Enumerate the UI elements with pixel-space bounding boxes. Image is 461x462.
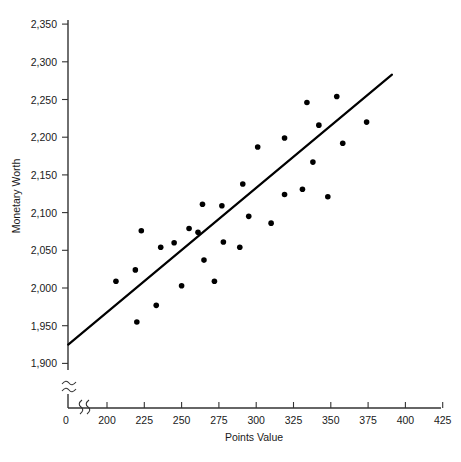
data-point — [237, 244, 243, 250]
x-tick-label: 325 — [285, 414, 303, 426]
scatter-chart: 1,9001,9502,0002,0502,1002,1502,2002,250… — [0, 0, 461, 462]
x-tick-label: 275 — [210, 414, 228, 426]
y-tick-label: 1,950 — [31, 320, 57, 332]
x-axis-title: Points Value — [225, 431, 283, 443]
x-axis-ticks: 0200225250275300325350375400425 — [63, 402, 452, 426]
data-point — [300, 186, 306, 192]
x-tick-label: 350 — [322, 414, 340, 426]
y-axis-ticks: 1,9001,9502,0002,0502,1002,1502,2002,250… — [31, 18, 68, 369]
x-tick-label: 200 — [98, 414, 116, 426]
y-tick-label: 2,100 — [31, 207, 57, 219]
data-point — [364, 119, 370, 125]
data-point — [268, 220, 274, 226]
data-point — [334, 94, 340, 100]
data-point — [201, 257, 207, 263]
data-point — [221, 239, 227, 245]
data-point — [219, 203, 225, 209]
axis-break-marks — [62, 381, 90, 414]
y-tick-label: 2,200 — [31, 131, 57, 143]
data-point — [310, 159, 316, 165]
x-axis-break-icon — [79, 400, 90, 414]
data-point — [340, 140, 346, 146]
data-point — [325, 194, 331, 200]
data-point-group — [113, 94, 369, 325]
chart-canvas: 1,9001,9502,0002,0502,1002,1502,2002,250… — [0, 0, 461, 462]
y-tick-label: 2,300 — [31, 56, 57, 68]
data-point — [158, 244, 164, 250]
y-tick-label: 2,000 — [31, 282, 57, 294]
y-tick-label: 2,350 — [31, 18, 57, 30]
axis-lines — [68, 20, 441, 408]
x-tick-label: 225 — [136, 414, 154, 426]
data-point — [171, 240, 177, 246]
y-axis-break-icon — [62, 381, 76, 392]
data-point — [134, 319, 140, 325]
x-tick-label: 425 — [434, 414, 452, 426]
x-tick-label: 300 — [247, 414, 265, 426]
y-axis-title: Monetary Worth — [10, 159, 22, 234]
data-point — [304, 100, 310, 106]
y-tick-label: 2,050 — [31, 244, 57, 256]
x-tick-label: 250 — [173, 414, 191, 426]
data-point — [153, 303, 159, 309]
data-point — [179, 283, 185, 289]
data-point — [195, 229, 201, 235]
data-point — [133, 267, 139, 273]
y-tick-label: 2,250 — [31, 94, 57, 106]
data-point — [139, 228, 145, 234]
y-tick-label: 2,150 — [31, 169, 57, 181]
trend-line — [68, 75, 392, 345]
data-point — [246, 214, 252, 220]
x-tick-label: 0 — [63, 414, 69, 426]
x-tick-label: 400 — [397, 414, 415, 426]
data-point — [200, 202, 206, 208]
data-point — [240, 181, 246, 187]
data-point — [282, 192, 288, 198]
data-point — [186, 226, 192, 232]
data-point — [113, 278, 119, 284]
y-tick-label: 1,900 — [31, 357, 57, 369]
data-point — [255, 144, 261, 150]
data-point — [316, 122, 322, 128]
data-point — [212, 278, 218, 284]
x-tick-label: 375 — [359, 414, 377, 426]
data-point — [282, 135, 288, 141]
